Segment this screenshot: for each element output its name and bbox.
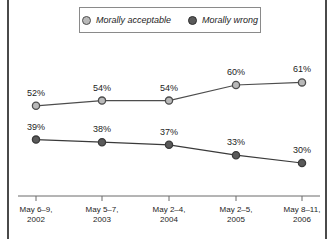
chart-container: Morally acceptable Morally wrong 52%54%5… <box>0 0 334 239</box>
data-point-marker <box>32 102 39 109</box>
x-axis-label: May 8–11,2006 <box>284 205 321 225</box>
x-axis-label: May 5–7,2003 <box>86 205 119 225</box>
data-point-value-label: 38% <box>93 125 111 134</box>
data-point-value-label: 52% <box>27 89 45 98</box>
plot-area <box>0 0 334 239</box>
data-point-value-label: 54% <box>160 84 178 93</box>
data-point-marker <box>165 97 172 104</box>
data-point-value-label: 54% <box>93 84 111 93</box>
data-point-value-label: 37% <box>160 128 178 137</box>
data-point-value-label: 60% <box>227 68 245 77</box>
data-point-marker <box>165 141 172 148</box>
data-point-value-label: 30% <box>293 146 311 155</box>
data-point-marker <box>298 159 305 166</box>
data-point-value-label: 33% <box>227 138 245 147</box>
data-point-marker <box>298 79 305 86</box>
x-axis-label: May 6–9,2002 <box>20 205 53 225</box>
data-point-marker <box>98 97 105 104</box>
data-point-marker <box>232 152 239 159</box>
data-point-marker <box>98 139 105 146</box>
plot-svg <box>0 0 334 239</box>
data-point-value-label: 61% <box>293 65 311 74</box>
data-point-marker <box>32 136 39 143</box>
x-axis-label: May 2–4,2004 <box>153 205 186 225</box>
x-axis-label: May 2–5,2005 <box>220 205 253 225</box>
data-point-marker <box>232 81 239 88</box>
data-point-value-label: 39% <box>27 123 45 132</box>
